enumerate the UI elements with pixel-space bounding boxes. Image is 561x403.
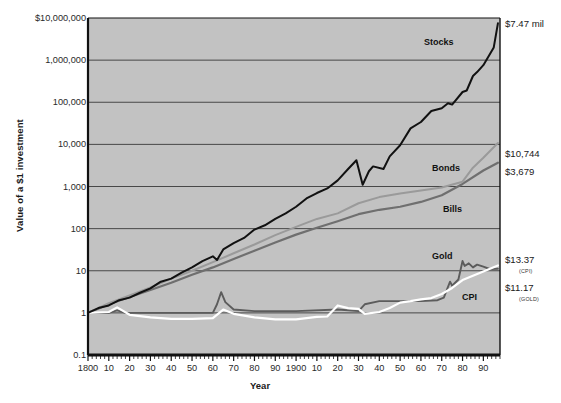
series-label-bills: Bills — [443, 204, 462, 214]
x-tick-label: 20 — [124, 363, 134, 373]
footer-caption-strip — [40, 396, 520, 400]
x-tick-label: 90 — [270, 363, 280, 373]
series-label-cpi: CPI — [462, 292, 477, 302]
x-tick-label: 50 — [187, 363, 197, 373]
end-label-gold-sub: (GOLD) — [519, 296, 539, 302]
x-tick-label: 60 — [208, 363, 218, 373]
x-tick-label: 30 — [353, 363, 363, 373]
x-tick-label: 30 — [145, 363, 155, 373]
x-tick-label: 20 — [333, 363, 343, 373]
x-tick-label: 40 — [374, 363, 384, 373]
x-tick-label: 80 — [457, 363, 467, 373]
x-tick-label: 70 — [229, 363, 239, 373]
x-tick-label: 40 — [166, 363, 176, 373]
series-label-gold: Gold — [432, 251, 453, 261]
end-label-cpi: $13.37 — [505, 254, 534, 265]
x-tick-label: 10 — [104, 363, 114, 373]
series-label-stocks: Stocks — [424, 37, 454, 47]
end-label-stocks: $7.47 mil — [505, 18, 544, 29]
x-tick-label: 10 — [312, 363, 322, 373]
end-label-bills: $3,679 — [505, 166, 534, 177]
series-label-bonds: Bonds — [432, 163, 460, 173]
x-tick-label: 50 — [395, 363, 405, 373]
plot-area — [0, 0, 561, 403]
x-tick-label: 60 — [416, 363, 426, 373]
x-tick-label: 1900 — [286, 363, 306, 373]
x-tick-label: 1800 — [78, 363, 98, 373]
x-tick-label: 70 — [437, 363, 447, 373]
end-label-bonds: $10,744 — [505, 148, 540, 159]
x-tick-label: 90 — [478, 363, 488, 373]
chart-figure: Value of a $1 investment $10,000,000 1,0… — [0, 0, 561, 403]
end-label-cpi-sub: (CPI) — [519, 268, 533, 274]
x-tick-label: 80 — [249, 363, 259, 373]
end-label-gold: $11.17 — [505, 282, 534, 293]
x-axis-title: Year — [250, 380, 270, 391]
